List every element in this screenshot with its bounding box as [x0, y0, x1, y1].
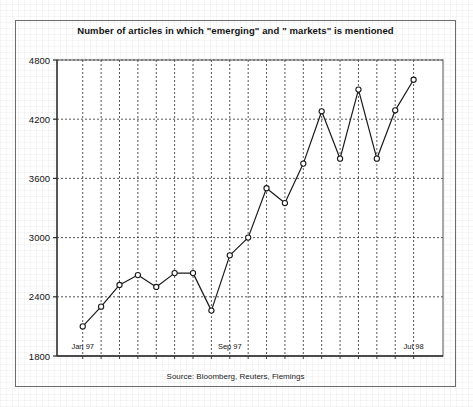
series-data-point: [154, 284, 159, 289]
y-axis-tick-label: 4200: [29, 114, 50, 125]
y-axis-tick-label: 4800: [29, 55, 50, 66]
x-axis-tick-label: Sep 97: [218, 342, 242, 351]
series-data-point: [117, 282, 122, 287]
chart-plot-area: 180024003000360042004800Jan 97Sep 97Jul …: [0, 0, 473, 407]
series-data-point: [264, 186, 269, 191]
x-axis-tick-label: Jul 98: [404, 342, 424, 351]
series-data-point: [190, 271, 195, 276]
source-note: Source: Bloomberg, Reuters, Flemings: [16, 370, 455, 384]
series-data-point: [393, 108, 398, 113]
series-data-point: [99, 304, 104, 309]
series-data-point: [135, 272, 140, 277]
series-data-point: [319, 109, 324, 114]
y-axis-tick-label: 1800: [29, 351, 50, 362]
series-data-point: [227, 253, 232, 258]
x-axis-tick-label: Jan 97: [71, 342, 94, 351]
y-axis-tick-label: 3000: [29, 232, 50, 243]
series-data-point: [209, 308, 214, 313]
series-data-point: [337, 156, 342, 161]
series-data-point: [374, 156, 379, 161]
series-data-point: [80, 324, 85, 329]
y-axis-tick-label: 3600: [29, 173, 50, 184]
series-data-point: [246, 235, 251, 240]
series-data-point: [356, 87, 361, 92]
y-axis-tick-label: 2400: [29, 291, 50, 302]
series-data-point: [172, 271, 177, 276]
series-data-point: [301, 161, 306, 166]
plot-background: [57, 60, 443, 356]
series-data-point: [411, 77, 416, 82]
series-data-point: [282, 200, 287, 205]
